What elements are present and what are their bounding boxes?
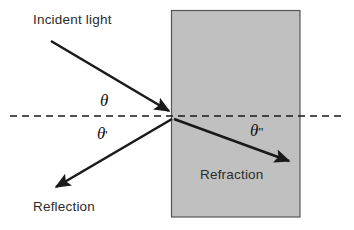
reflected-ray-arrow	[56, 119, 172, 187]
angle-theta-prime-label: θ'	[97, 125, 108, 142]
optics-diagram: Incident light Reflection Refraction θ θ…	[0, 0, 354, 230]
reflection-label: Reflection	[33, 200, 95, 214]
medium-rectangle	[172, 11, 301, 218]
angle-theta-label: θ	[100, 92, 108, 109]
angle-theta-double-prime-label: θ"	[250, 122, 264, 139]
double-prime-mark: "	[258, 124, 264, 139]
incident-ray-arrow	[51, 41, 169, 111]
incident-light-label: Incident light	[33, 13, 112, 27]
prime-mark: '	[105, 127, 108, 142]
diagram-canvas	[0, 0, 354, 230]
refraction-label: Refraction	[200, 168, 264, 182]
